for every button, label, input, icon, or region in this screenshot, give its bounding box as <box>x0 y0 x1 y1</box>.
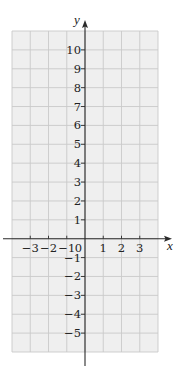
x-axis-label: x <box>166 238 173 253</box>
x-tick-label: 3 <box>136 241 143 255</box>
y-tick-label: 4 <box>74 156 81 170</box>
x-tick-label: −2 <box>40 241 57 255</box>
y-tick-label: 2 <box>74 194 81 208</box>
y-tick-label: 5 <box>74 137 81 151</box>
y-tick-label: 9 <box>74 62 81 76</box>
y-tick-label: 8 <box>74 81 81 95</box>
y-tick-label: 6 <box>74 118 81 132</box>
x-tick-label: 2 <box>118 241 125 255</box>
y-tick-label: −3 <box>64 288 81 302</box>
y-tick-label: −4 <box>64 307 81 321</box>
x-tick-label: 1 <box>100 241 107 255</box>
y-tick-label: 10 <box>66 43 81 57</box>
y-tick-label: 7 <box>74 100 81 114</box>
y-tick-label: −5 <box>64 326 81 340</box>
y-tick-label: −1 <box>64 251 81 265</box>
coordinate-plane: x y −3−2−10123 10987654321−1−2−3−4−5 <box>0 0 181 375</box>
y-tick-label: 1 <box>74 213 81 227</box>
y-axis-label: y <box>72 12 80 27</box>
x-tick-label: −3 <box>22 241 39 255</box>
y-tick-label: −2 <box>64 269 81 283</box>
y-tick-label: 3 <box>74 175 81 189</box>
